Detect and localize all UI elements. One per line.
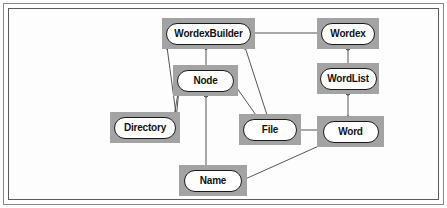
diagram-canvas: WordexBuilderWordexNodeWordListDirectory…: [0, 0, 447, 208]
class-label-node: Node: [193, 76, 217, 86]
class-pill-wordlist[interactable]: WordList: [320, 68, 377, 90]
class-box-node[interactable]: Node: [173, 65, 238, 96]
class-label-file: File: [262, 125, 278, 135]
class-box-name[interactable]: Name: [179, 165, 247, 196]
class-label-wordexbuilder: WordexBuilder: [174, 29, 242, 39]
class-label-wordex: Wordex: [330, 29, 365, 39]
class-box-word[interactable]: Word: [317, 116, 384, 147]
class-pill-wordexbuilder[interactable]: WordexBuilder: [166, 23, 251, 45]
class-label-directory: Directory: [124, 123, 166, 133]
class-pill-file[interactable]: File: [243, 119, 297, 141]
class-label-name: Name: [200, 176, 226, 186]
class-pill-wordex[interactable]: Wordex: [321, 23, 375, 45]
class-box-file[interactable]: File: [239, 114, 301, 145]
class-pill-directory[interactable]: Directory: [114, 117, 176, 139]
class-label-wordlist: WordList: [327, 74, 369, 84]
class-pill-name[interactable]: Name: [184, 170, 242, 192]
class-box-wordlist[interactable]: WordList: [317, 63, 379, 94]
class-label-word: Word: [338, 127, 363, 137]
class-pill-node[interactable]: Node: [177, 70, 234, 92]
lines-group: [167, 33, 348, 180]
class-box-directory[interactable]: Directory: [110, 112, 180, 143]
class-box-wordexbuilder[interactable]: WordexBuilder: [162, 18, 255, 49]
class-box-wordex[interactable]: Wordex: [317, 18, 379, 49]
class-pill-word[interactable]: Word: [323, 121, 379, 143]
association-line-wordexbuilder-file: [245, 47, 268, 118]
